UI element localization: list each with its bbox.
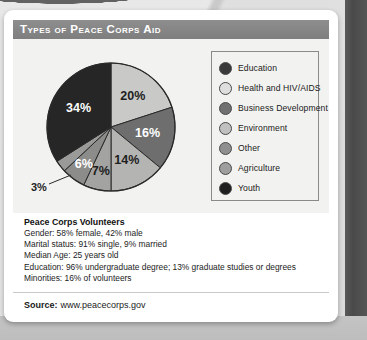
legend-swatch-icon: [219, 102, 232, 115]
legend-swatch-icon: [219, 182, 232, 195]
legend-item-label: Other: [238, 143, 260, 153]
legend-item-label: Education: [238, 63, 277, 73]
stats-title: Peace Corps Volunteers: [24, 217, 324, 227]
footer-divider: [13, 292, 329, 293]
legend-item: Agriculture: [212, 158, 318, 178]
pie-chart: 20%16%14%7%6%34% 3%: [31, 47, 191, 207]
infographic-card: Types of Peace Corps Aid 20%16%14%7%6%34…: [4, 10, 338, 322]
legend-item: Other: [212, 138, 318, 158]
legend-swatch-icon: [219, 142, 232, 155]
pie-slice-label: 16%: [135, 126, 160, 140]
stat-line: Minorities: 16% of volunteers: [24, 273, 324, 284]
legend-item-label: Health and HIV/AIDS: [238, 83, 321, 93]
stat-line: Marital status: 91% single, 9% married: [24, 239, 324, 250]
legend-swatch-icon: [219, 82, 232, 95]
source-url: www.peacecorps.gov: [61, 300, 146, 310]
legend-swatch-icon: [219, 162, 232, 175]
chart-panel: 20%16%14%7%6%34% 3% EducationHealth and …: [13, 39, 329, 213]
pie-slice-label: 14%: [114, 153, 139, 167]
legend: EducationHealth and HIV/AIDSBusiness Dev…: [211, 51, 319, 201]
pie-slice-label: 20%: [120, 89, 145, 103]
legend-item: Youth: [212, 178, 318, 198]
pie-slice-label: 6%: [75, 157, 93, 171]
source-label: Source:: [24, 300, 58, 310]
pie-slice-label: 7%: [92, 164, 110, 178]
legend-item: Environment: [212, 118, 318, 138]
legend-item: Business Development: [212, 98, 318, 118]
stats-lines: Gender: 58% female, 42% maleMarital stat…: [24, 228, 324, 284]
stat-line: Gender: 58% female, 42% male: [24, 228, 324, 239]
legend-item-label: Youth: [238, 183, 260, 193]
legend-swatch-icon: [219, 62, 232, 75]
stat-line: Median Age: 25 years old: [24, 250, 324, 261]
pie-slice-label: 34%: [66, 101, 91, 115]
legend-item-label: Agriculture: [238, 163, 280, 173]
background-right-strip: [345, 0, 367, 340]
stats-block: Peace Corps Volunteers Gender: 58% femal…: [24, 217, 324, 284]
slice-leader-line: [49, 175, 71, 184]
legend-swatch-icon: [219, 122, 232, 135]
stat-line: Education: 96% undergraduate degree; 13%…: [24, 262, 324, 273]
page-title: Types of Peace Corps Aid: [13, 20, 329, 39]
legend-item-label: Business Development: [238, 103, 328, 113]
legend-item: Education: [212, 58, 318, 78]
source-footer: Source: www.peacecorps.gov: [24, 300, 146, 310]
pie-slice-label-outside: 3%: [31, 181, 47, 193]
legend-item: Health and HIV/AIDS: [212, 78, 318, 98]
pie-chart-svg: 20%16%14%7%6%34%: [31, 47, 191, 207]
header-bar: Types of Peace Corps Aid: [13, 20, 329, 39]
legend-item-label: Environment: [238, 123, 287, 133]
